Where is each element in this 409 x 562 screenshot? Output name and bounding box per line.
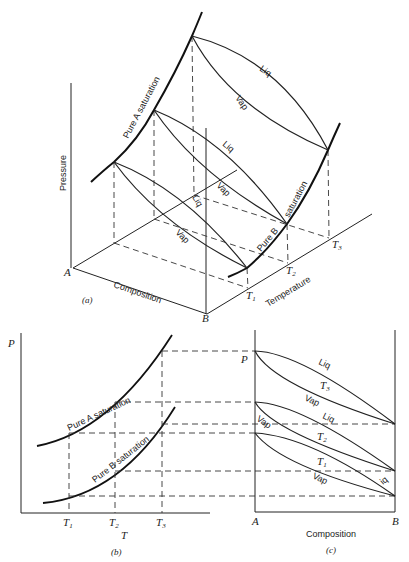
c-liq-label-t3: Liq bbox=[317, 357, 332, 371]
panel-b-caption: (b) bbox=[111, 547, 122, 557]
temperature-axis-label: Temperature bbox=[264, 274, 312, 309]
vap-label-t2: Vap bbox=[215, 180, 233, 198]
t3-label: T3 bbox=[332, 238, 342, 252]
floor-isotherm-t3 bbox=[194, 195, 329, 238]
b-t3-label: T3 bbox=[156, 516, 166, 530]
liq-curve-t1 bbox=[114, 162, 247, 268]
drop-b2 bbox=[287, 224, 288, 263]
b-pure-b-label: Pure B saturation bbox=[90, 434, 151, 485]
c-liq-label-t1: iq bbox=[378, 474, 390, 486]
c-liq-label-t2: Liq bbox=[321, 411, 336, 425]
diagram-canvas: Pressure Composition Temperature A B (a)… bbox=[0, 0, 409, 562]
b-t2-label: T2 bbox=[109, 516, 119, 530]
c-p-label: P bbox=[240, 353, 248, 365]
drop-b1 bbox=[247, 268, 248, 288]
phase-diagram-figure: Pressure Composition Temperature A B (a)… bbox=[0, 0, 409, 562]
pressure-axis-label: Pressure bbox=[58, 155, 68, 191]
c-vap-label-t2: Vap bbox=[255, 413, 273, 430]
pure-a-saturation-curve-b bbox=[37, 335, 172, 446]
t2-label: T2 bbox=[286, 264, 296, 278]
pure-b-saturation-curve-b bbox=[43, 407, 175, 503]
corner-a-label: A bbox=[63, 266, 71, 278]
vap-curve-t1 bbox=[114, 162, 247, 268]
panel-c-caption: (c) bbox=[326, 545, 336, 555]
floor-isotherm-t1 bbox=[114, 243, 248, 288]
vap-curve-t3 bbox=[192, 36, 328, 150]
p-axis-label: P bbox=[7, 337, 15, 349]
liq-curve-t2 bbox=[154, 110, 287, 224]
liq-label-t1: Liq bbox=[190, 193, 205, 208]
panel-b: P T (b) T1 T2 T3 Pure A saturation Pure … bbox=[7, 333, 395, 557]
panel-a-caption: (a) bbox=[82, 295, 93, 305]
liq-curve-t3 bbox=[192, 36, 328, 150]
c-corner-a: A bbox=[251, 515, 259, 527]
vap-label-t1: Vap bbox=[174, 227, 192, 245]
c-t3-label: T3 bbox=[320, 379, 330, 393]
c-t1-label: T1 bbox=[317, 455, 327, 469]
c-composition-label: Composition bbox=[306, 529, 356, 539]
panel-a: Pressure Composition Temperature A B (a)… bbox=[58, 12, 372, 324]
drop-a3 bbox=[192, 36, 194, 195]
drop-b3 bbox=[328, 150, 329, 238]
c-corner-b: B bbox=[392, 515, 399, 527]
t1-label: T1 bbox=[246, 289, 256, 303]
t-axis-label: T bbox=[121, 529, 128, 541]
c-vap-label-t3: Vap bbox=[303, 393, 321, 409]
c-t2-label: T2 bbox=[317, 430, 327, 444]
panel-c: P A B Composition (c) Liq T3 Vap Liq Vap… bbox=[240, 330, 399, 555]
vap-curve-t2 bbox=[154, 110, 287, 224]
b-pure-a-label: Pure A saturation bbox=[66, 395, 132, 433]
c-vap-label-t1: Vap bbox=[311, 471, 329, 487]
composition-axis-label: Composition bbox=[112, 279, 163, 305]
pure-b-saturation-curve bbox=[228, 123, 340, 277]
corner-b-label: B bbox=[202, 312, 209, 324]
b-t1-label: T1 bbox=[63, 516, 73, 530]
vap-label-t3: Vap bbox=[233, 93, 250, 111]
